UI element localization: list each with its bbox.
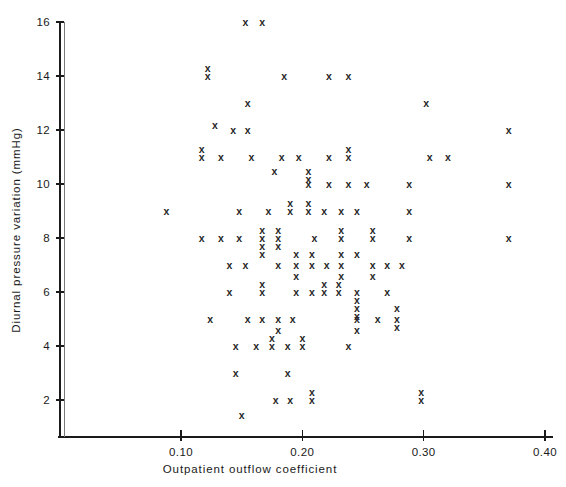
y-axis-tick-label: 2 <box>43 394 50 406</box>
data-point-marker: x <box>236 232 242 244</box>
data-point-marker: x <box>309 286 315 298</box>
data-point-marker: x <box>218 232 224 244</box>
data-point-marker: x <box>338 232 344 244</box>
y-axis-tick-label: 6 <box>43 286 50 298</box>
data-point-marker: x <box>230 124 236 136</box>
data-point-marker: x <box>354 324 360 336</box>
data-point-marker: x <box>346 340 352 352</box>
y-axis-title: Diurnal pressure variation (mmHg) <box>10 127 22 332</box>
y-axis-tick-label: 12 <box>36 124 50 136</box>
scatter-plot-figure: 246810121416 0.100.200.300.40 xxxxxxxxxx… <box>0 0 566 487</box>
data-point-marker: x <box>406 205 412 217</box>
x-axis-ticks: 0.100.200.300.40 <box>169 430 557 458</box>
data-point-marker: x <box>296 151 302 163</box>
x-axis-title: Outpatient outflow coefficient <box>163 463 337 475</box>
data-point-marker: x <box>312 232 318 244</box>
y-axis-tick-label: 16 <box>36 16 50 28</box>
axes <box>58 22 553 437</box>
data-point-marker: x <box>423 97 429 109</box>
data-point-marker: x <box>346 178 352 190</box>
data-point-marker: x <box>354 205 360 217</box>
data-point-marker: x <box>242 16 248 28</box>
y-axis-tick-label: 4 <box>43 340 50 352</box>
data-point-marker: x <box>309 259 315 271</box>
data-point-marker: x <box>259 16 265 28</box>
data-point-marker: x <box>285 367 291 379</box>
data-point-marker: x <box>275 259 281 271</box>
data-point-marker: x <box>321 205 327 217</box>
data-point-marker: x <box>199 151 205 163</box>
data-point-marker: x <box>279 151 285 163</box>
data-point-marker: x <box>406 232 412 244</box>
data-point-marker: x <box>205 70 211 82</box>
data-point-marker: x <box>336 286 342 298</box>
data-point-marker: x <box>245 124 251 136</box>
data-point-marker: x <box>233 340 239 352</box>
data-point-marker: x <box>259 286 265 298</box>
data-point-marker: x <box>259 313 265 325</box>
data-point-marker: x <box>384 286 390 298</box>
data-point-marker: x <box>272 165 278 177</box>
data-point-marker: x <box>275 240 281 252</box>
data-point-marker: x <box>370 232 376 244</box>
data-point-marker: x <box>364 178 370 190</box>
data-point-marker: x <box>309 394 315 406</box>
data-point-marker: x <box>248 151 254 163</box>
data-point-marker: x <box>236 205 242 217</box>
data-point-marker: x <box>199 232 205 244</box>
data-point-marker: x <box>346 151 352 163</box>
data-point-marker: x <box>245 313 251 325</box>
data-point-marker: x <box>506 124 512 136</box>
data-point-marker: x <box>338 205 344 217</box>
data-point-marker: x <box>506 178 512 190</box>
data-point-marker: x <box>242 259 248 271</box>
data-point-marker: x <box>269 340 275 352</box>
data-point-marker: x <box>227 259 233 271</box>
data-point-marker: x <box>245 97 251 109</box>
data-point-marker: x <box>326 70 332 82</box>
data-point-marker: x <box>218 151 224 163</box>
data-point-series: xxxxxxxxxxxxxxxxxxxxxxxxxxxxxxxxxxxxxxxx… <box>164 16 512 421</box>
data-point-marker: x <box>506 232 512 244</box>
data-point-marker: x <box>427 151 433 163</box>
data-point-marker: x <box>265 205 271 217</box>
y-axis-tick-label: 14 <box>36 70 50 82</box>
data-point-marker: x <box>346 70 352 82</box>
y-axis-tick-label: 8 <box>43 232 50 244</box>
data-point-marker: x <box>324 259 330 271</box>
data-point-marker: x <box>354 248 360 260</box>
x-axis-tick-label: 0.10 <box>169 446 193 458</box>
data-point-marker: x <box>375 313 381 325</box>
x-axis-tick-label: 0.30 <box>412 446 436 458</box>
data-point-marker: x <box>384 259 390 271</box>
plot-canvas: 246810121416 0.100.200.300.40 xxxxxxxxxx… <box>0 0 566 487</box>
data-point-marker: x <box>293 286 299 298</box>
data-point-marker: x <box>305 178 311 190</box>
data-point-marker: x <box>406 178 412 190</box>
x-axis-tick-label: 0.40 <box>533 446 557 458</box>
data-point-marker: x <box>293 270 299 282</box>
data-point-marker: x <box>212 119 218 131</box>
data-point-marker: x <box>259 248 265 260</box>
data-point-marker: x <box>275 324 281 336</box>
data-point-marker: x <box>399 259 405 271</box>
data-point-marker: x <box>299 340 305 352</box>
data-point-marker: x <box>326 178 332 190</box>
data-point-marker: x <box>285 340 291 352</box>
data-point-marker: x <box>445 151 451 163</box>
data-point-marker: x <box>233 367 239 379</box>
data-point-marker: x <box>239 409 245 421</box>
data-point-marker: x <box>305 205 311 217</box>
data-point-marker: x <box>370 270 376 282</box>
data-point-marker: x <box>281 70 287 82</box>
data-point-marker: x <box>321 286 327 298</box>
data-point-marker: x <box>290 313 296 325</box>
data-point-marker: x <box>273 394 279 406</box>
data-point-marker: x <box>418 394 424 406</box>
data-point-marker: x <box>287 394 293 406</box>
y-axis-tick-label: 10 <box>36 178 50 190</box>
data-point-marker: x <box>164 205 170 217</box>
data-point-marker: x <box>227 286 233 298</box>
data-point-marker: x <box>326 151 332 163</box>
data-point-marker: x <box>253 340 259 352</box>
